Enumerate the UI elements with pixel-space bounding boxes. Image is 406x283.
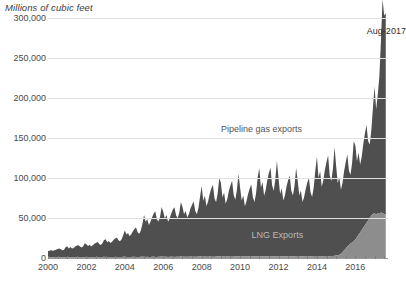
- y-axis-tick-label: 200,000: [0, 93, 46, 103]
- x-axis-tickmark: [327, 256, 328, 259]
- x-axis-tick-label: 2012: [268, 262, 288, 272]
- x-axis-tickmark: [221, 256, 222, 259]
- x-axis-tickmark: [240, 256, 241, 259]
- x-axis-tickmark: [134, 256, 135, 259]
- x-axis-tick-label: 2000: [38, 262, 58, 272]
- y-axis-tick-label: 150,000: [0, 133, 46, 143]
- x-axis-tickmark: [202, 256, 203, 259]
- x-axis-tickmark: [375, 256, 376, 259]
- x-axis-tickmark: [106, 256, 107, 259]
- x-axis-tick-label: 2008: [192, 262, 212, 272]
- x-axis-tickmark: [163, 256, 164, 259]
- gridline: [48, 138, 388, 139]
- x-axis-tickmark: [365, 256, 366, 259]
- x-axis-tickmark: [230, 256, 231, 259]
- x-axis-tickmark: [154, 256, 155, 259]
- x-axis-tickmark: [317, 256, 318, 259]
- x-axis-tickmark: [58, 256, 59, 259]
- y-axis-tick-label: 50,000: [0, 213, 46, 223]
- x-axis-tickmark: [86, 256, 87, 259]
- x-axis-tickmark: [96, 256, 97, 259]
- x-axis-tick-label: 2016: [345, 262, 365, 272]
- x-axis-tickmark: [259, 256, 260, 259]
- y-axis-tick-label: 100,000: [0, 173, 46, 183]
- x-axis-tickmark: [336, 256, 337, 259]
- x-axis-tickmark: [288, 256, 289, 259]
- x-axis-tickmark: [269, 256, 270, 259]
- gridline: [48, 58, 388, 59]
- y-axis-tick-label: 250,000: [0, 53, 46, 63]
- annotation-peak-date: Aug-2017: [367, 26, 406, 36]
- x-axis-tickmark: [384, 256, 385, 259]
- x-axis-tickmark: [144, 256, 145, 259]
- x-axis-tick-label: 2002: [76, 262, 96, 272]
- y-axis-tick-label: 300,000: [0, 13, 46, 23]
- x-axis-tickmark: [279, 256, 280, 259]
- gridline: [48, 98, 388, 99]
- x-axis-tick-label: 2006: [153, 262, 173, 272]
- x-axis-tickmark: [298, 256, 299, 259]
- gridline: [48, 218, 388, 219]
- y-axis: 050,000100,000150,000200,000250,000300,0…: [0, 0, 46, 283]
- x-axis-tickmark: [77, 256, 78, 259]
- x-axis-tickmark: [173, 256, 174, 259]
- gridline: [48, 178, 388, 179]
- x-axis-tickmark: [67, 256, 68, 259]
- x-axis-tickmark: [355, 256, 356, 259]
- x-axis-tickmark: [346, 256, 347, 259]
- x-axis-tick-label: 2010: [230, 262, 250, 272]
- x-axis-tickmark: [307, 256, 308, 259]
- x-axis-tickmark: [125, 256, 126, 259]
- x-axis-tick-label: 2004: [115, 262, 135, 272]
- x-axis-tickmark: [211, 256, 212, 259]
- x-axis-tickmark: [182, 256, 183, 259]
- x-axis-tickmark: [250, 256, 251, 259]
- x-axis-tickmark: [115, 256, 116, 259]
- annotation-lng-exports: LNG Exports: [252, 230, 304, 240]
- x-axis-tickmark: [192, 256, 193, 259]
- x-axis-tick-label: 2014: [307, 262, 327, 272]
- x-axis-tickmark: [48, 256, 49, 259]
- annotation-pipeline-gas-exports: Pipeline gas exports: [221, 124, 302, 134]
- gridline: [48, 18, 388, 19]
